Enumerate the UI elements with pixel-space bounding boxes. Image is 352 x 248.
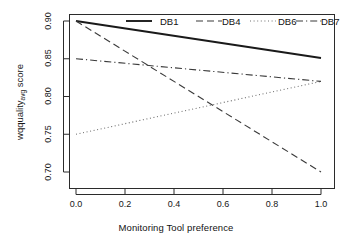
y-axis-title-tail: score (14, 64, 25, 90)
y-tick-label: 0.75 (43, 119, 53, 149)
legend-label-db7: DB7 (321, 16, 339, 27)
x-tick-label: 1.0 (304, 199, 338, 209)
y-axis-title-main: wqquality (14, 100, 25, 140)
x-tick-label: 0.6 (206, 199, 240, 209)
y-tick-label: 0.70 (43, 157, 53, 187)
x-tick-label: 0.4 (157, 199, 191, 209)
x-axis-title: Monitoring Tool preference (0, 222, 352, 233)
y-tick-label: 0.85 (43, 43, 53, 73)
legend-label-db4: DB4 (222, 16, 240, 27)
x-tick-label: 0.0 (59, 199, 93, 209)
legend-label-db6: DB6 (278, 16, 296, 27)
y-tick-label: 0.90 (43, 6, 53, 36)
x-tick-label: 0.8 (255, 199, 289, 209)
y-axis-title-wrapper: wqqualityavg score (9, 42, 27, 162)
y-tick-label: 0.80 (43, 81, 53, 111)
legend-label-db1: DB1 (160, 16, 178, 27)
chart-figure: 0.70 0.75 0.80 0.85 0.90 0.0 0.2 0.4 0.6… (0, 0, 352, 248)
y-axis-title-subscript: avg (19, 90, 26, 100)
x-tick-label: 0.2 (108, 199, 142, 209)
y-axis-title: wqqualityavg score (14, 64, 25, 140)
